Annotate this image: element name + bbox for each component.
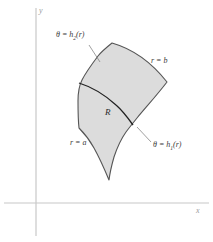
x-axis-label: x bbox=[196, 207, 200, 215]
label-theta-h2-rhs: (r) bbox=[76, 30, 84, 39]
leader-line-theta-lower bbox=[137, 127, 151, 142]
label-theta-h1: θ = h1(r) bbox=[153, 141, 182, 151]
label-theta-h1-lhs: θ = h bbox=[153, 140, 170, 149]
region-label-R: R bbox=[105, 108, 111, 117]
label-theta-h2: θ = h2(r) bbox=[56, 31, 85, 41]
label-theta-h1-rhs: (r) bbox=[173, 140, 181, 149]
label-r-a: r = a bbox=[70, 139, 87, 147]
label-theta-h2-lhs: θ = h bbox=[56, 30, 73, 39]
y-axis-label: y bbox=[39, 7, 43, 15]
polar-region-figure: y x θ = h2(r) r = b r = a θ = h1(r) R bbox=[0, 0, 213, 242]
leader-line-theta-upper bbox=[89, 45, 100, 62]
figure-canvas bbox=[0, 0, 213, 242]
label-r-b: r = b bbox=[151, 57, 168, 65]
